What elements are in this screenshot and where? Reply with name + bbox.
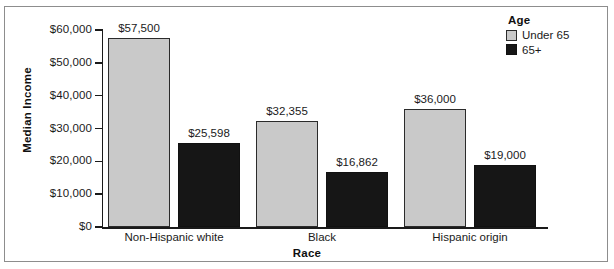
bar-value-label: $19,000	[464, 150, 546, 162]
y-axis-tick-label-text: $10,000	[6, 188, 92, 200]
y-axis-tick-label-text: $30,000	[6, 123, 92, 135]
legend-title: Age	[508, 14, 598, 26]
legend-swatch-icon	[506, 30, 517, 41]
x-axis-category-label: Black	[252, 232, 392, 244]
bar-value-label: $16,862	[316, 157, 398, 169]
bar	[474, 165, 536, 227]
y-axis-tick-label-text: $60,000	[6, 24, 92, 36]
plot-area: Median Income $0$10,000$20,000$30,000$40…	[0, 0, 614, 269]
legend-item: Under 65	[506, 29, 598, 42]
y-axis-tick	[95, 161, 103, 162]
y-axis-tick-label: $10,000	[0, 188, 92, 200]
y-axis-tick	[95, 193, 103, 194]
legend-swatch-icon	[506, 44, 517, 55]
bar-value-label: $57,500	[98, 23, 180, 35]
bar-value-label: $36,000	[394, 94, 476, 106]
legend-item-label: Under 65	[522, 29, 569, 42]
x-axis-title: Race	[0, 247, 614, 259]
y-axis-tick-label: $60,000	[0, 24, 92, 36]
y-axis-tick-label-text: $40,000	[6, 90, 92, 102]
y-axis-tick	[95, 95, 103, 96]
y-axis-tick-label: $30,000	[0, 123, 92, 135]
bar	[256, 121, 318, 227]
bar-value-label: $25,598	[168, 128, 250, 140]
bar	[178, 143, 240, 227]
bar	[404, 109, 466, 227]
y-axis-tick-label: $40,000	[0, 90, 92, 102]
y-axis-tick-label: $20,000	[0, 155, 92, 167]
chart-figure: Median Income $0$10,000$20,000$30,000$40…	[0, 0, 614, 269]
y-axis-title: Median Income	[21, 55, 33, 165]
y-axis-tick-label: $50,000	[0, 57, 92, 69]
y-axis-tick	[95, 128, 103, 129]
x-axis-category-label: Non-Hispanic white	[104, 232, 244, 244]
legend: Age Under 6565+	[506, 14, 598, 58]
bar	[108, 38, 170, 227]
bar-value-label: $32,355	[246, 106, 328, 118]
x-axis-line	[102, 227, 548, 229]
y-axis-tick-label-text: $20,000	[6, 155, 92, 167]
bar	[326, 172, 388, 227]
x-axis-category-label: Hispanic origin	[400, 232, 540, 244]
y-axis-tick-label-text: $50,000	[6, 57, 92, 69]
y-axis-tick	[95, 62, 103, 63]
y-axis-tick-label-text: $0	[6, 221, 92, 233]
y-axis-tick-label: $0	[0, 221, 92, 233]
legend-item-label: 65+	[522, 44, 542, 57]
legend-entries: Under 6565+	[506, 29, 598, 56]
legend-item: 65+	[506, 44, 598, 57]
